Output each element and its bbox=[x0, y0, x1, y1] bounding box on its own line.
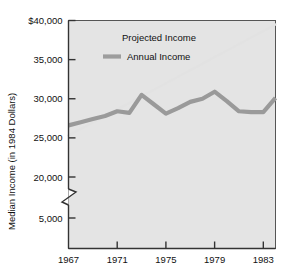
y-tick-label: 35,000 bbox=[33, 54, 62, 65]
y-tick-label: 30,000 bbox=[33, 93, 62, 104]
y-tick-label: $40,000 bbox=[28, 15, 62, 26]
x-tick-label: 1983 bbox=[253, 254, 274, 265]
y-tick-label: 5,000 bbox=[39, 213, 63, 224]
x-tick-label: 1971 bbox=[107, 254, 128, 265]
chart-container: $40,00035,00030,00025,00020,0005,000 196… bbox=[0, 0, 294, 280]
median-income-line-chart: $40,00035,00030,00025,00020,0005,000 196… bbox=[0, 0, 294, 280]
y-tick-label: 20,000 bbox=[33, 172, 62, 183]
x-tick-label: 1967 bbox=[58, 254, 79, 265]
x-tick-label: 1979 bbox=[204, 254, 225, 265]
y-tick-label: 25,000 bbox=[33, 132, 62, 143]
legend-label-annual-income: Annual Income bbox=[127, 51, 190, 62]
legend-label-projected-income: Projected Income bbox=[122, 32, 196, 43]
x-tick-label: 1975 bbox=[155, 254, 176, 265]
y-axis-title: Median Income (in 1984 Dollars) bbox=[6, 93, 17, 230]
